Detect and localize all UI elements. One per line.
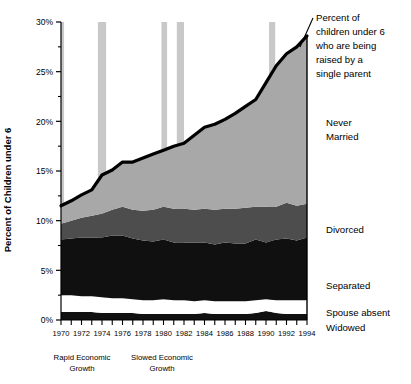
slowed-economic-growth-line2: Growth: [149, 364, 174, 373]
x-tick-label-1992: 1992: [278, 329, 295, 338]
series-label-spouse-absent: Spouse absent: [326, 307, 390, 318]
callout-line-2: children under 6: [316, 26, 385, 37]
series-label-never-married-line1: Never: [326, 117, 352, 128]
series-label-never-married-line2: Married: [326, 131, 359, 142]
x-tick-label-1984: 1984: [196, 329, 213, 338]
rapid-economic-growth-line2: Growth: [69, 364, 94, 373]
series-label-separated: Separated: [326, 280, 370, 291]
callout-line-4: raised by a: [316, 54, 364, 65]
series-label-widowed: Widowed: [326, 322, 365, 333]
x-tick-label-1974: 1974: [94, 329, 111, 338]
x-tick-label-1990: 1990: [258, 329, 275, 338]
chart-container: 0%5%10%15%20%25%30% 19701972197419761978…: [0, 0, 411, 384]
y-tick-label-25pct: 25%: [36, 67, 53, 77]
x-tick-label-1988: 1988: [237, 329, 254, 338]
y-tick-label-5pct: 5%: [41, 266, 54, 276]
callout-line-5: single parent: [316, 68, 371, 79]
x-tick-label-1970: 1970: [53, 329, 70, 338]
slowed-economic-growth-line1: Slowed Economic: [131, 353, 193, 362]
callout-line-1: Percent of: [316, 12, 360, 23]
y-tick-label-0pct: 0%: [41, 315, 54, 325]
x-tick-label-1972: 1972: [73, 329, 90, 338]
stacked-area-chart: 0%5%10%15%20%25%30% 19701972197419761978…: [0, 0, 411, 384]
x-tick-label-1976: 1976: [114, 329, 131, 338]
y-tick-label-20pct: 20%: [36, 117, 53, 127]
y-tick-label-10pct: 10%: [36, 216, 53, 226]
area-separated: [61, 236, 307, 302]
x-tick-label-1978: 1978: [135, 329, 152, 338]
rapid-economic-growth-line1: Rapid Economic: [54, 353, 111, 362]
y-tick-label-15pct: 15%: [36, 166, 53, 176]
x-tick-label-1982: 1982: [176, 329, 193, 338]
callout-line-3: who are being: [315, 40, 376, 51]
y-tick-label-30pct: 30%: [36, 17, 53, 27]
x-tick-label-1986: 1986: [217, 329, 234, 338]
x-tick-label-1994: 1994: [299, 329, 316, 338]
y-axis-title: Percent of Children under 6: [2, 128, 13, 253]
series-label-divorced: Divorced: [326, 224, 364, 235]
x-tick-label-1980: 1980: [155, 329, 172, 338]
